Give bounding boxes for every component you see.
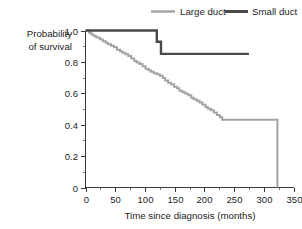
x-axis-title: Time since diagnosis (months) xyxy=(124,210,255,221)
x-tick-label: 100 xyxy=(138,194,154,205)
x-tick-label: 350 xyxy=(287,194,302,205)
y-tick-label: 0 xyxy=(73,183,78,194)
y-axis-title-line2: of survival xyxy=(28,41,72,52)
x-tick-label: 250 xyxy=(227,194,243,205)
y-axis-title-line1: Probability xyxy=(27,28,72,39)
y-tick-label: 0.8 xyxy=(65,57,78,68)
x-tick-label: 300 xyxy=(257,194,273,205)
x-axis-ticks: 050100150200250300350 xyxy=(84,188,302,205)
x-tick-label: 200 xyxy=(197,194,213,205)
chart-series xyxy=(86,31,278,188)
y-tick-label: 0.2 xyxy=(65,151,78,162)
x-tick-label: 50 xyxy=(110,194,121,205)
series-line-small-duct xyxy=(86,31,249,54)
legend-label-small-duct: Small duct xyxy=(252,6,298,17)
survival-chart: Large duct Small duct 00.20.40.60.81.0 0… xyxy=(0,0,302,229)
legend-label-large-duct: Large duct xyxy=(180,6,226,17)
chart-legend: Large duct Small duct xyxy=(151,6,298,17)
chart-canvas: Large duct Small duct 00.20.40.60.81.0 0… xyxy=(0,0,302,229)
y-tick-label: 0.6 xyxy=(65,88,78,99)
x-tick-label: 150 xyxy=(168,194,184,205)
x-tick-label: 0 xyxy=(84,194,89,205)
y-tick-label: 0.4 xyxy=(65,120,78,131)
